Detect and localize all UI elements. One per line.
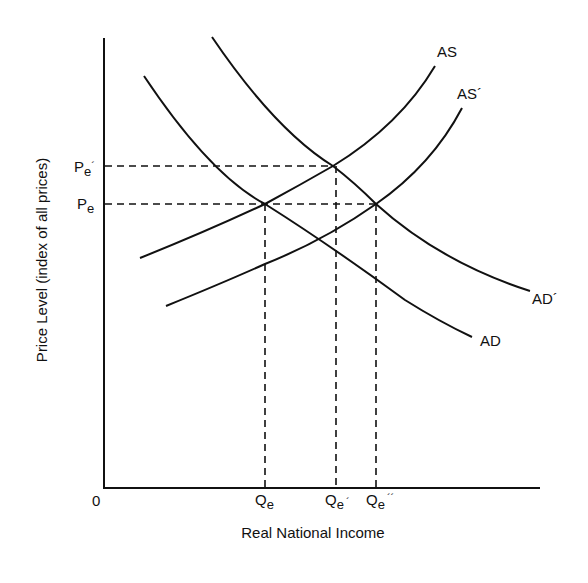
qe-double-prime-tick-label: Qe´´ [366,491,394,512]
pe-prime-base: P [74,158,84,175]
ad-prime-label: AD´ [532,290,558,307]
as-prime-curve [166,108,462,306]
y-axis-title: Price Level (index of all prices) [33,158,50,362]
qe-sub: e [267,497,274,512]
origin-label: 0 [92,492,100,509]
qe-prime-mark: ´ [346,496,350,508]
x-axis-title: Real National Income [241,524,384,541]
as-label: AS [437,43,457,60]
qe-prime-tick-label: Qe´ [325,491,350,512]
pe-prime-sub: e [84,164,91,179]
qe-prime-base: Q [325,491,337,508]
pe-prime-tick-label: Pe´ [74,158,95,179]
pe-tick-label: Pe [77,195,94,216]
svg-text:Pe´: Pe´ [74,158,95,179]
qe-double-prime-sub: e [378,497,385,512]
svg-text:Pe: Pe [77,195,94,216]
qe-prime-sub: e [337,497,344,512]
qe-tick-label: Qe [255,491,274,512]
ad-as-diagram: AS AS´ AD´ AD Pe´ Pe Qe Qe´ Qe´´ 0 Real … [0,0,588,583]
qe-double-prime-base: Q [366,491,378,508]
pe-base: P [77,195,87,212]
ad-curve [144,76,472,337]
pe-sub: e [87,201,94,216]
qe-base: Q [255,491,267,508]
ad-label: AD [480,332,501,349]
as-curve [140,66,435,258]
ad-prime-curve [212,37,530,291]
pe-prime-mark: ´ [91,160,95,172]
as-prime-label: AS´ [457,85,482,102]
qe-double-prime-mark: ´´ [387,492,394,504]
